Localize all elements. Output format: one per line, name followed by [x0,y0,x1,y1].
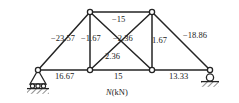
force-label-left-diagonal: −23.57 [51,34,75,43]
left-pin-support [27,70,49,94]
caption-unit: (kN) [112,87,128,97]
truss-force-diagram: −15 −23.57 −1.67 −2.36 1.67 −18.86 2.36 … [0,0,239,103]
force-label-right-diagonal: −18.86 [183,31,207,40]
force-label-left-vertical: −1.67 [81,34,101,43]
force-label-bottom-middle: 15 [114,72,123,81]
joint-left-support [35,67,40,72]
force-label-bottom-left: 16.67 [55,72,74,81]
force-label-diagonal-up: 2.36 [105,52,120,61]
force-label-diagonal-down: −2.36 [113,34,133,43]
force-label-top-chord: −15 [112,15,125,24]
joint-top-left [87,9,92,14]
figure-caption: N(kN) [106,88,128,97]
force-label-bottom-right: 13.33 [169,72,188,81]
joint-bottom-right [149,67,154,72]
right-roller-support [201,74,219,87]
joint-top-right [149,9,154,14]
joint-right-support [207,67,212,72]
joint-bottom-left [87,67,92,72]
force-label-right-vertical: 1.67 [152,36,167,45]
